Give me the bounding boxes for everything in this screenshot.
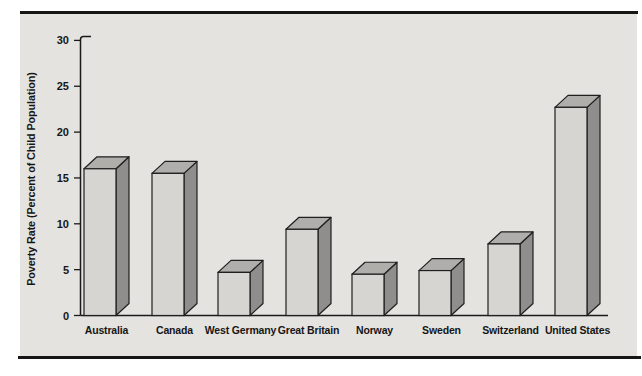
category-label-australia: Australia [85,324,129,336]
y-tick-label-0: 0 [63,310,69,322]
y-tick-label-10: 10 [57,218,69,230]
bar-west-germany [218,272,250,315]
bar-sweden [419,271,451,316]
category-label-west-germany: West Germany [205,324,277,336]
category-label-canada: Canada [156,324,193,336]
bar-australia [84,169,116,316]
category-label-great-britain: Great Britain [278,324,340,336]
bar-side-united-states [587,95,600,315]
bar-side-australia [116,157,129,316]
bar-side-switzerland [520,232,533,316]
bar-side-great-britain [318,217,331,315]
bar-great-britain [286,229,318,315]
y-axis-title: Poverty Rate (Percent of Child Populatio… [25,72,37,286]
category-label-switzerland: Switzerland [482,324,539,336]
y-tick-label-30: 30 [57,34,69,46]
category-label-united-states: United States [545,324,610,336]
y-tick-label-5: 5 [63,264,69,276]
bottom-rule [18,356,641,359]
bar-united-states [555,107,587,315]
bar-norway [352,274,384,315]
category-label-norway: Norway [356,324,393,336]
bar-chart: 051015202530AustraliaCanadaWest GermanyG… [0,0,642,376]
y-tick-label-15: 15 [57,172,69,184]
bar-side-canada [184,161,197,315]
bar-switzerland [488,244,520,316]
y-tick-label-25: 25 [57,80,69,92]
category-label-sweden: Sweden [422,324,461,336]
y-tick-label-20: 20 [57,126,69,138]
bar-canada [152,173,184,315]
